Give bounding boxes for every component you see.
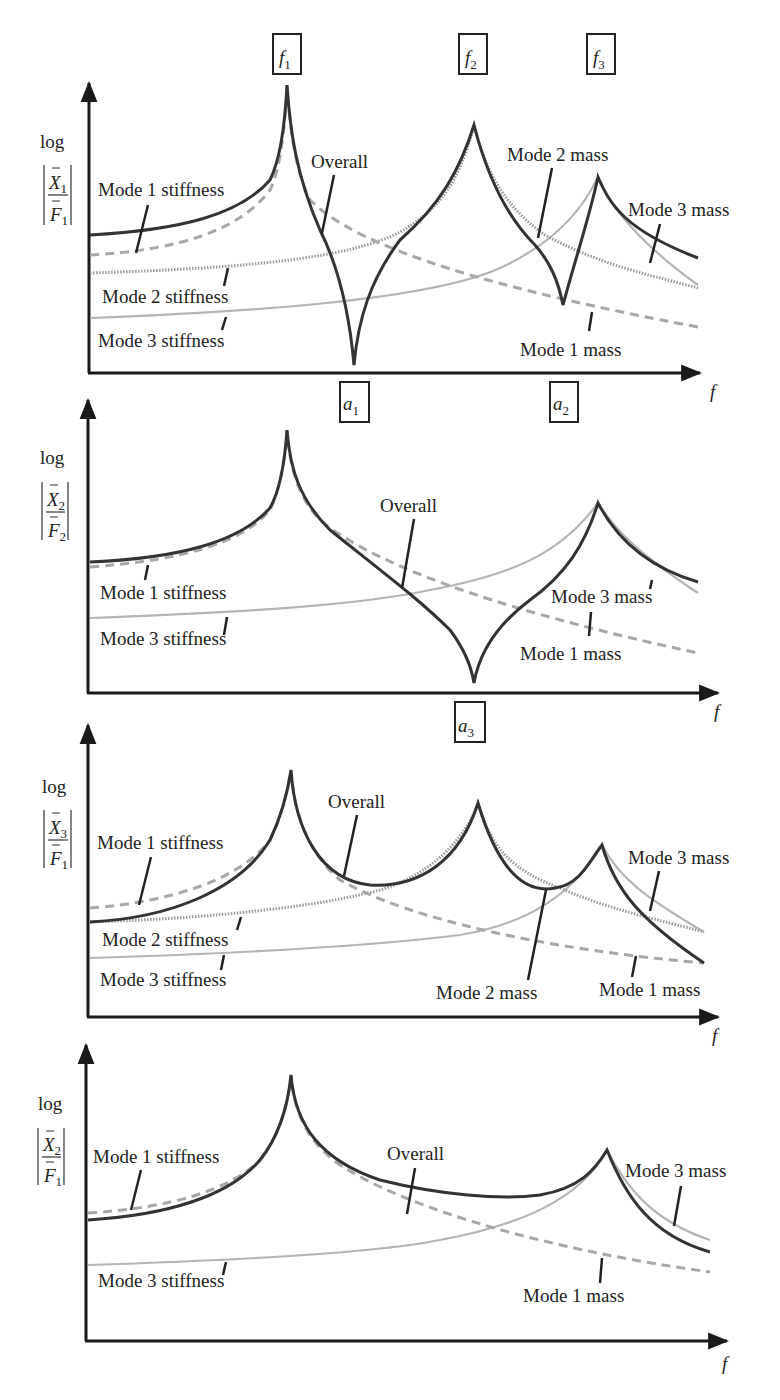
label-mode3-mass: Mode 3 mass <box>551 580 652 607</box>
svg-text:f2: f2 <box>465 47 477 72</box>
y-axis-label: log X2 F1 <box>38 1093 64 1189</box>
svg-text:Mode 2 stiffness: Mode 2 stiffness <box>102 929 228 950</box>
svg-text:F2: F2 <box>47 520 66 544</box>
svg-text:log: log <box>42 776 67 797</box>
svg-text:Mode 1 stiffness: Mode 1 stiffness <box>98 179 224 200</box>
curve-mode2 <box>90 803 704 932</box>
svg-text:Mode 1 stiffness: Mode 1 stiffness <box>93 1146 219 1167</box>
label-mode2-mass: Mode 2 mass <box>507 144 608 238</box>
svg-text:Mode 1 stiffness: Mode 1 stiffness <box>100 582 226 603</box>
svg-text:Mode 3 mass: Mode 3 mass <box>551 586 652 607</box>
marker-f2: f2 <box>459 34 487 74</box>
marker-f3: f3 <box>587 34 615 74</box>
x-axis-label: f <box>722 1353 730 1374</box>
svg-text:Mode 2 mass: Mode 2 mass <box>507 144 608 165</box>
svg-text:F1: F1 <box>49 848 68 872</box>
label-mode1-mass: Mode 1 mass <box>523 1258 624 1306</box>
svg-text:Mode 1 mass: Mode 1 mass <box>520 643 621 664</box>
y-axis-label: log X2 F2 <box>40 447 68 544</box>
label-overall: Overall <box>328 791 385 876</box>
marker-a2: a2 <box>550 382 578 422</box>
label-mode2-stiffness: Mode 2 stiffness <box>102 917 241 950</box>
label-mode2-stiffness: Mode 2 stiffness <box>102 268 228 307</box>
panel-3-x3-f1: f log X3 F1 Overall Mode 1 stiffness Mod… <box>42 725 729 1046</box>
x-axis-label: f <box>712 1025 720 1046</box>
label-mode3-mass: Mode 3 mass <box>628 847 729 911</box>
svg-text:Mode 3 mass: Mode 3 mass <box>625 1160 726 1181</box>
svg-text:f3: f3 <box>593 47 605 72</box>
svg-text:Overall: Overall <box>328 791 385 812</box>
svg-text:Mode 1 mass: Mode 1 mass <box>523 1285 624 1306</box>
frf-figure: f1 f2 f3 f log X1 F1 <box>0 0 780 1400</box>
label-mode2-mass: Mode 2 mass <box>436 890 546 1003</box>
svg-text:Mode 2 mass: Mode 2 mass <box>436 982 537 1003</box>
svg-text:Mode 3 mass: Mode 3 mass <box>628 199 729 220</box>
panel-1-x1-f1: f1 f2 f3 f log X1 F1 <box>40 34 729 422</box>
y-axis-label: log X1 F1 <box>40 131 71 228</box>
svg-text:a1: a1 <box>343 393 359 418</box>
svg-text:Mode 2 stiffness: Mode 2 stiffness <box>102 286 228 307</box>
y-axis-label: log X3 F1 <box>42 776 71 872</box>
label-mode3-stiffness: Mode 3 stiffness <box>98 1262 226 1291</box>
svg-text:X2: X2 <box>42 1134 61 1158</box>
svg-text:log: log <box>40 131 65 152</box>
svg-text:f1: f1 <box>279 47 291 72</box>
label-mode3-stiffness: Mode 3 stiffness <box>98 317 226 351</box>
svg-text:X3: X3 <box>48 817 67 841</box>
curve-overall <box>90 85 698 365</box>
svg-text:Mode 1 mass: Mode 1 mass <box>520 339 621 360</box>
panel-4-x2-f1: f log X2 F1 Mode 1 stiffness Overall Mod… <box>38 1045 730 1374</box>
svg-text:F1: F1 <box>43 1165 62 1189</box>
label-mode3-mass: Mode 3 mass <box>625 1160 726 1226</box>
x-axis-label: f <box>710 381 718 402</box>
svg-text:Overall: Overall <box>311 151 368 172</box>
label-mode1-mass: Mode 1 mass <box>520 312 621 360</box>
svg-text:Mode 3 stiffness: Mode 3 stiffness <box>98 1270 224 1291</box>
svg-text:Mode 3 stiffness: Mode 3 stiffness <box>100 628 226 649</box>
svg-text:Overall: Overall <box>387 1143 444 1164</box>
svg-text:Mode 3 mass: Mode 3 mass <box>628 847 729 868</box>
label-mode3-stiffness: Mode 3 stiffness <box>100 955 226 990</box>
svg-text:Overall: Overall <box>380 495 437 516</box>
x-axis-label: f <box>714 701 722 722</box>
svg-text:F1: F1 <box>49 204 68 228</box>
svg-text:a3: a3 <box>458 715 474 740</box>
label-overall: Overall <box>380 495 437 588</box>
svg-text:Mode 1 stiffness: Mode 1 stiffness <box>97 832 223 853</box>
svg-text:Mode 1 mass: Mode 1 mass <box>599 979 700 1000</box>
panel-2-x2-f2: f log X2 F2 Overall Mode 1 stiffness Mod… <box>40 400 722 742</box>
svg-text:a2: a2 <box>553 393 569 418</box>
marker-f1: f1 <box>273 34 301 74</box>
label-mode3-stiffness: Mode 3 stiffness <box>100 617 227 649</box>
label-mode1-mass: Mode 1 mass <box>520 612 621 664</box>
marker-a1: a1 <box>340 382 369 422</box>
label-mode1-stiffness: Mode 1 stiffness <box>98 179 224 253</box>
svg-text:X2: X2 <box>46 489 65 513</box>
svg-text:log: log <box>40 447 65 468</box>
curve-mode3 <box>88 1150 710 1265</box>
svg-text:log: log <box>38 1093 63 1114</box>
curve-mode1 <box>90 430 698 653</box>
label-mode1-stiffness: Mode 1 stiffness <box>100 565 226 603</box>
svg-text:Mode 3 stiffness: Mode 3 stiffness <box>98 330 224 351</box>
marker-a3: a3 <box>455 702 485 742</box>
label-overall: Overall <box>311 151 368 233</box>
svg-text:Mode 3 stiffness: Mode 3 stiffness <box>100 969 226 990</box>
svg-text:X1: X1 <box>48 172 67 196</box>
